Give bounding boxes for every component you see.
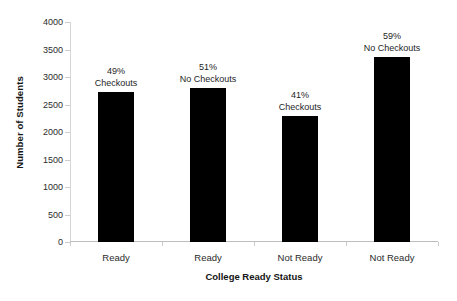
bar-data-label: 41%Checkouts	[279, 89, 322, 113]
bar-label-category: No Checkouts	[180, 73, 237, 85]
bar-chart: Number of Students 050010001500200025003…	[0, 0, 457, 301]
x-axis-tick	[162, 242, 163, 246]
y-axis-tick-label: 500	[48, 210, 63, 220]
bar	[98, 92, 134, 242]
bar	[282, 116, 318, 242]
y-axis-tick-label: 2500	[43, 100, 63, 110]
y-axis-title: Number of Students	[9, 0, 29, 245]
y-axis-tick	[65, 105, 70, 106]
y-axis-tick	[65, 187, 70, 188]
y-axis-tick	[65, 160, 70, 161]
y-axis-tick-label: 3500	[43, 45, 63, 55]
bar-label-percent: 59%	[364, 30, 421, 42]
x-axis-category-label: Not Ready	[370, 252, 415, 263]
y-axis-tick-label: 1500	[43, 155, 63, 165]
bar-label-category: Checkouts	[95, 77, 138, 89]
y-axis-tick	[65, 77, 70, 78]
bar-label-percent: 51%	[180, 61, 237, 73]
x-axis-title: College Ready Status	[70, 271, 438, 282]
bar-data-label: 59%No Checkouts	[364, 30, 421, 54]
x-axis-category-label: Ready	[194, 252, 221, 263]
bar	[374, 57, 410, 242]
plot-area: 05001000150020002500300035004000	[70, 22, 438, 242]
y-axis-tick-label: 4000	[43, 17, 63, 27]
bar-label-category: Checkouts	[279, 101, 322, 113]
bar-data-label: 49%Checkouts	[95, 65, 138, 89]
bar-label-percent: 49%	[95, 65, 138, 77]
x-axis-category-label: Not Ready	[278, 252, 323, 263]
bar-data-label: 51%No Checkouts	[180, 61, 237, 85]
y-axis-line	[70, 22, 71, 242]
y-axis-tick	[65, 50, 70, 51]
bar-label-percent: 41%	[279, 89, 322, 101]
y-axis-tick	[65, 215, 70, 216]
y-axis-tick-label: 2000	[43, 127, 63, 137]
y-axis-tick-label: 3000	[43, 72, 63, 82]
x-axis-tick	[346, 242, 347, 246]
x-axis-tick	[438, 242, 439, 246]
x-axis-category-label: Ready	[102, 252, 129, 263]
x-axis-tick	[254, 242, 255, 246]
bar-label-category: No Checkouts	[364, 42, 421, 54]
y-axis-tick-label: 0	[58, 237, 63, 247]
y-axis-tick	[65, 22, 70, 23]
y-axis-tick	[65, 132, 70, 133]
y-axis-title-text: Number of Students	[14, 76, 25, 169]
y-axis-tick-label: 1000	[43, 182, 63, 192]
x-axis-tick	[70, 242, 71, 246]
bar	[190, 88, 226, 242]
